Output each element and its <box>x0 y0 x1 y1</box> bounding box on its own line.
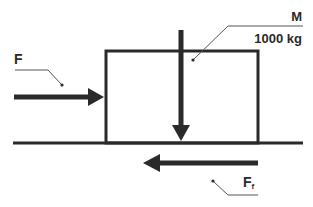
mass-value-label: 1000 kg <box>254 32 302 45</box>
friction-force-label: Ff <box>243 175 254 191</box>
mass-symbol-label: M <box>291 10 302 23</box>
friction-force-subscript: f <box>252 182 255 191</box>
friction-force-symbol: F <box>243 174 252 190</box>
weight-arrow-icon <box>172 30 190 141</box>
applied-force-arrow-icon <box>14 88 104 106</box>
applied-force-leader-line <box>15 70 64 87</box>
applied-force-label: F <box>14 52 23 66</box>
friction-arrow-icon <box>143 154 258 172</box>
